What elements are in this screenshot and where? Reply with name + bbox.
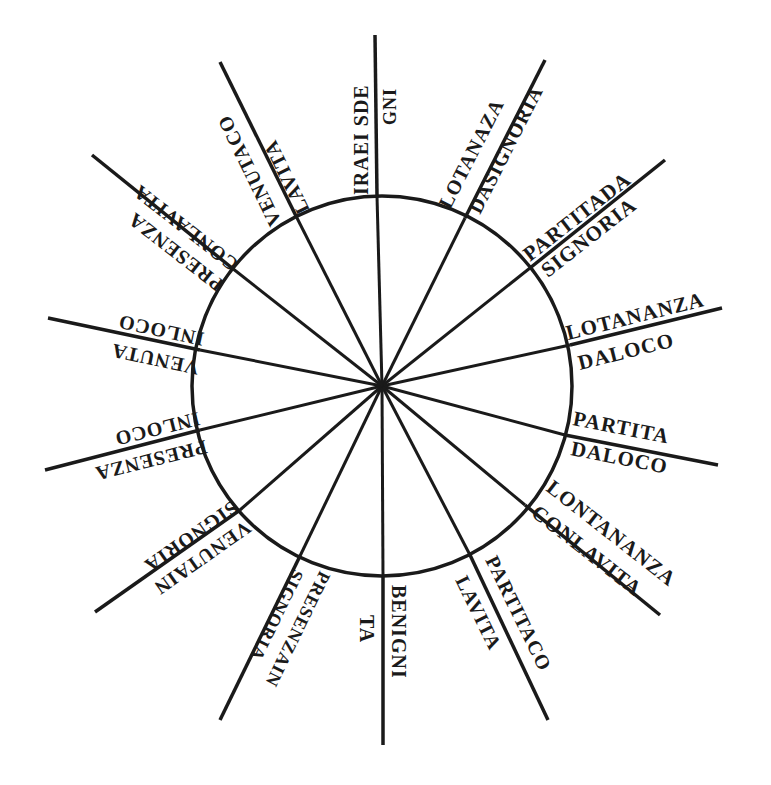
wheel-svg: IRAEI SDE GNI LOTANAZA DASIGNORIA PARTIT… (0, 0, 771, 785)
wheel-diagram: IRAEI SDE GNI LOTANAZA DASIGNORIA PARTIT… (0, 0, 771, 785)
label-sse-inner: TA (356, 615, 378, 643)
label-top-outer: IRAEI SDE (350, 84, 372, 195)
wheel-spokes (200, 196, 570, 576)
label-sse-outer: BENIGNI (388, 585, 410, 679)
label-top-inner: GNI (380, 88, 400, 125)
